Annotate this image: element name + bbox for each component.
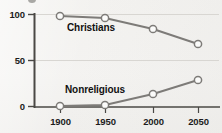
series-christians-point-1950 [101,14,108,21]
y-tick-label-0: 0 [0,101,25,112]
series-christians-point-2050 [194,40,201,47]
gridlines [34,15,219,61]
series-label-christians: Christians [67,22,115,33]
x-tick-label-1900: 1900 [38,116,83,127]
series-label-nonreligious: Nonreligious [65,84,125,95]
y-tick-label-100: 100 [0,9,25,20]
line-chart-plot [0,0,222,133]
series-nonreligious-point-1900 [56,102,63,109]
x-tick-label-2000: 2000 [131,116,176,127]
series-christians-point-2000 [149,25,156,32]
series-christians-point-1900 [56,12,63,19]
y-tick-label-50: 50 [0,55,25,66]
chart-container: 100 50 0 1900 1950 2000 2050 Christians … [0,0,222,133]
y-axis [28,13,35,108]
series-nonreligious-point-2000 [149,90,156,97]
series-nonreligious-point-2050 [194,76,201,83]
x-tick-label-2050: 2050 [176,116,221,127]
series-nonreligious-point-1950 [101,101,108,108]
x-tick-label-1950: 1950 [83,116,128,127]
